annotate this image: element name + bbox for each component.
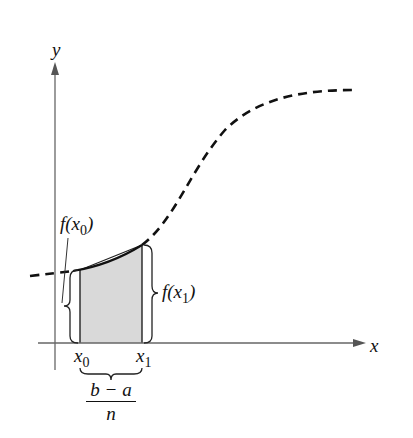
curve-dashed-left: [30, 271, 73, 276]
x0-subscript: 0: [82, 355, 89, 370]
f-x0-subscript: 0: [80, 223, 87, 238]
f-x1-label: f(x1): [162, 282, 195, 301]
f-x0-close: ): [87, 213, 93, 234]
f-x1-close: ): [189, 281, 195, 302]
width-fraction: b − a n: [86, 380, 136, 423]
y-axis-arrow-icon: [51, 62, 59, 75]
curve-dashed-right: [142, 90, 356, 245]
f-x1-fn: f(x: [162, 281, 182, 302]
x1-subscript: 1: [144, 355, 151, 370]
f-x0-brace: [64, 270, 78, 343]
x-axis-label: x: [370, 336, 378, 355]
f-x0-fn: f(x: [60, 213, 80, 234]
x0-label: x0: [74, 346, 89, 365]
width-numerator: b − a: [86, 380, 136, 402]
f-x0-label: f(x0): [60, 214, 93, 233]
x-axis-arrow-icon: [353, 339, 366, 347]
y-axis-label: y: [52, 40, 60, 59]
trapezoid-diagram: y x f(x0) f(x1) x0 x1 b − a n: [0, 0, 413, 438]
f-x1-brace: [144, 245, 158, 343]
f-x1-subscript: 1: [182, 291, 189, 306]
x1-label: x1: [136, 346, 151, 365]
width-denominator: n: [86, 402, 136, 423]
